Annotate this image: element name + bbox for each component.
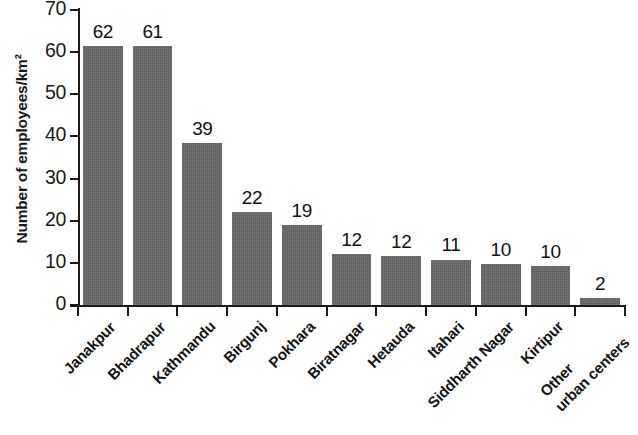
bar-value-label: 61 [133,21,173,43]
bar-value-label: 62 [83,21,123,43]
bar [182,143,222,305]
y-tick-label: 70 [22,0,66,20]
x-axis-line [70,305,626,307]
y-tick-label: 10 [22,250,66,273]
x-tick-mark [127,307,129,316]
bar [282,225,322,305]
bar [481,264,521,305]
y-tick-label: 30 [22,166,66,189]
x-axis-label: Siddharth Nagar [424,318,517,411]
x-tick-mark [276,307,278,316]
x-tick-mark [624,307,626,316]
bar [232,212,272,305]
x-axis-label-line: Hetauda [364,318,417,371]
bar [580,298,620,305]
x-axis-label-line: Itahari [424,318,467,361]
x-tick-mark [226,307,228,316]
x-tick-mark [525,307,527,316]
x-tick-mark [176,307,178,316]
bar-value-label: 19 [282,200,322,222]
bar-value-label: 10 [531,241,571,263]
bar-value-label: 2 [580,273,620,295]
y-tick-label: 20 [22,208,66,231]
x-tick-mark [475,307,477,316]
y-tick-label: 0 [22,292,66,315]
bar [332,254,372,305]
y-tick-label: 40 [22,123,66,146]
bar-value-label: 39 [182,118,222,140]
bar [381,256,421,305]
x-tick-mark [375,307,377,316]
x-tick-mark [77,307,79,316]
bar-value-label: 22 [232,187,272,209]
x-tick-mark [326,307,328,316]
x-tick-mark [425,307,427,316]
bar [431,260,471,306]
y-tick-label: 60 [22,39,66,62]
plot-area: 626139221912121110102 [78,10,625,305]
x-axis-label: Birgunj [220,318,268,366]
x-tick-mark [574,307,576,316]
bar-value-label: 12 [381,231,421,253]
bar [83,46,123,305]
bar [133,46,173,305]
y-tick-label: 50 [22,81,66,104]
bar-value-label: 11 [431,234,471,256]
bar [531,266,571,305]
bar-value-label: 10 [481,239,521,261]
bar-value-label: 12 [332,229,372,251]
x-axis-label-line: Kirtipur [517,318,566,367]
x-axis-label: Kirtipur [517,318,566,367]
x-axis-label: Hetauda [364,318,417,371]
x-axis-label-line: Birgunj [220,318,268,366]
x-axis-label: Itahari [424,318,467,361]
x-axis-label-line: Siddharth Nagar [424,318,517,411]
bar-chart: Number of employees/km² 010203040506070 … [0,0,638,435]
